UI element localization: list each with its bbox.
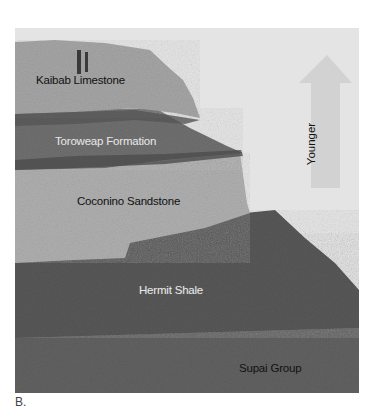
- stratigraphy-figure: Kaibab Limestone Toroweap Formation Coco…: [0, 0, 381, 411]
- label-kaibab-limestone: Kaibab Limestone: [36, 74, 125, 86]
- label-coconino-sandstone: Coconino Sandstone: [77, 195, 180, 207]
- label-supai-group: Supai Group: [239, 362, 301, 374]
- figure-caption: B.: [15, 395, 26, 409]
- younger-arrow-label: Younger: [305, 123, 317, 165]
- label-toroweap-formation: Toroweap Formation: [55, 135, 156, 147]
- younger-arrow: Younger: [296, 100, 326, 188]
- label-hermit-shale: Hermit Shale: [139, 284, 203, 296]
